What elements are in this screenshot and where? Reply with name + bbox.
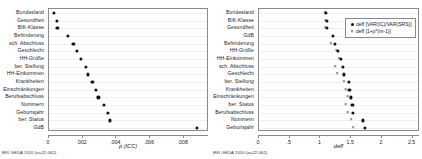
y-axis-label: ber. Stellung: [224, 78, 254, 84]
y-axis-label: HH-Größe: [230, 47, 254, 53]
data-point: ×: [351, 126, 355, 130]
gridline: [49, 105, 207, 106]
gridline: [49, 128, 207, 129]
data-point: [106, 111, 109, 114]
cross-marker-icon: ×: [348, 28, 356, 35]
y-axis-label: Behinderung: [224, 40, 254, 46]
data-point: ×: [329, 42, 333, 46]
x-axis-icc: 0.002.004.006.008: [48, 135, 208, 136]
data-point: [72, 42, 75, 45]
data-point: ×: [333, 65, 337, 69]
data-point: [87, 73, 90, 76]
data-point: [348, 88, 351, 91]
y-axis-label: ber. Status: [19, 116, 44, 122]
y-axis-label: Krankheiten: [226, 86, 254, 92]
x-axis-tick: [350, 135, 351, 138]
y-axis-label: sch. Abschluss: [219, 63, 254, 69]
data-point: ×: [323, 11, 327, 15]
y-axis-label: Gesundheit: [17, 17, 44, 23]
data-point: [94, 88, 97, 91]
y-axis-label: Nummern: [231, 116, 254, 122]
y-axis-label: sch. Abschluss: [9, 40, 44, 46]
data-point: [361, 119, 364, 122]
data-point: ×: [344, 88, 348, 92]
gridline: [259, 113, 418, 114]
data-point: [350, 96, 353, 99]
x-axis-tick: [183, 135, 184, 138]
data-point: [55, 19, 58, 22]
gridline: [49, 28, 207, 29]
x-axis-tick: [115, 135, 116, 138]
x-axis-tick: [149, 135, 150, 138]
data-point: [102, 103, 105, 106]
data-point: [364, 127, 367, 130]
x-axis-title-text-deff: deff: [334, 143, 343, 149]
data-point: ×: [349, 118, 353, 122]
gridline: [49, 113, 207, 114]
legend-item-label: deff [VAR(IC)/VAR(SRS)]: [356, 21, 412, 28]
data-point: [97, 96, 100, 99]
data-point: ×: [345, 111, 349, 115]
data-point: [347, 80, 350, 83]
gridline: [259, 82, 418, 83]
gridline: [259, 97, 418, 98]
gridline: [49, 13, 207, 14]
gridline: [49, 36, 207, 37]
y-axis-label: Geschlecht: [228, 70, 254, 76]
y-axis-label: Einschränkungen: [213, 93, 254, 99]
gridline: [259, 13, 418, 14]
y-axis-label: Einschränkungen: [3, 86, 44, 92]
data-point: [351, 111, 354, 114]
data-point: ×: [345, 95, 349, 99]
y-axis-label: HH-Einkommen: [7, 70, 44, 76]
x-axis-tick: [82, 135, 83, 138]
data-point: [79, 57, 82, 60]
footnote-icc: RKI GEDA 2010 (n=22.062): [2, 150, 56, 156]
data-point: ×: [344, 103, 348, 107]
data-point: [91, 80, 94, 83]
x-axis-tick: [319, 135, 320, 138]
data-point: [351, 103, 354, 106]
x-axis-deff: 0.511.522.5: [258, 135, 419, 136]
gridline: [259, 128, 418, 129]
gridline: [49, 74, 207, 75]
legend-deff[interactable]: deff [VAR(IC)/VAR(SRS)]×deff [1+ρ*(m-1)]: [345, 18, 416, 38]
data-point: ×: [323, 19, 327, 23]
y-axis-label: GdB: [34, 124, 45, 130]
figure-container: BundeslandGesundheitBIK-KlasseBehinderun…: [0, 0, 422, 159]
gridline: [49, 90, 207, 91]
data-point: [342, 73, 345, 76]
x-axis-tick: [412, 135, 413, 138]
y-axis-label: Berufsabschluss: [5, 93, 44, 99]
legend-item-label: deff [1+ρ*(m-1)]: [356, 28, 391, 35]
footnote-deff: RKI GEDA 2010 (n=22.062): [213, 150, 267, 156]
y-axis-labels-icc: BundeslandGesundheitBIK-KlasseBehinderun…: [0, 8, 46, 131]
data-point: [66, 34, 69, 37]
gridline: [49, 21, 207, 22]
data-point: [76, 50, 79, 53]
panel-icc: BundeslandGesundheitBIK-KlasseBehinderun…: [0, 0, 211, 159]
y-axis-label: Geschlecht: [18, 47, 44, 53]
y-axis-label: BIK-Klasse: [18, 24, 44, 30]
x-axis-title-icc: ρ (ICC): [48, 143, 208, 150]
y-axis-label: Geburtsjahr: [226, 124, 254, 130]
x-axis-title-text-icc: ρ (ICC): [119, 143, 137, 149]
data-point: [341, 65, 344, 68]
y-axis-label: Nummern: [21, 101, 44, 107]
y-axis-label: HH-Einkommen: [217, 55, 254, 61]
legend-item[interactable]: deff [VAR(IC)/VAR(SRS)]: [348, 21, 412, 28]
x-axis-title-deff: deff: [258, 143, 419, 150]
data-point: [331, 34, 334, 37]
x-axis-tick: [381, 135, 382, 138]
legend-item[interactable]: ×deff [1+ρ*(m-1)]: [348, 28, 412, 35]
data-point: ×: [334, 49, 338, 53]
data-point: [333, 42, 336, 45]
data-point: ×: [323, 26, 327, 30]
data-point: [84, 65, 87, 68]
y-axis-label: Bundesland: [226, 9, 254, 15]
y-axis-label: BIK-Klasse: [228, 17, 254, 23]
plot-area-icc: [48, 8, 208, 131]
y-axis-label: Bundesland: [16, 9, 44, 15]
gridline: [49, 67, 207, 68]
x-axis-tick: [258, 135, 259, 138]
